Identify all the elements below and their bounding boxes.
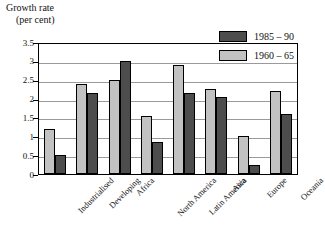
bar-group [173,44,195,174]
bar-group [44,44,66,174]
bar [44,129,55,174]
bar [205,89,216,174]
legend: 1985 – 901960 – 65 [219,27,294,65]
dark-gray-swatch [219,31,247,42]
bar [141,116,152,174]
legend-item-label: 1960 – 65 [254,51,294,61]
bar [270,91,281,174]
y-axis-tick-label: 3 [4,57,34,66]
light-gray-swatch [219,50,247,61]
bar [249,165,260,174]
bar [173,65,184,174]
y-axis-tick-label: 1 [4,133,34,142]
bar [238,136,249,174]
x-axis-labels: IndustrialisedDevelopingAfricaNorth Amer… [38,176,298,238]
y-axis-tick-label: 3.5 [4,39,34,48]
legend-item: 1985 – 90 [219,27,294,46]
bar [216,97,227,174]
bar [120,61,131,174]
y-axis-tick-label: 0 [4,171,34,180]
y-axis-tick-label: 2.5 [4,76,34,85]
x-axis-label: Oceania [299,176,325,202]
bar-group [141,44,163,174]
y-axis-tick-label: 2 [4,95,34,104]
bar [109,80,120,174]
bar-group [109,44,131,174]
bar [55,155,66,174]
legend-item: 1960 – 65 [219,46,294,65]
bar [184,93,195,174]
bar [152,142,163,174]
bar [87,93,98,174]
x-axis-label: Europe [266,176,290,200]
x-axis-label: Industrialised [77,176,116,215]
legend-item-label: 1985 – 90 [254,32,294,42]
y-axis-title-line-1: Growth rate [6,2,55,14]
y-axis-tick-label: 1.5 [4,114,34,123]
y-axis-title-line-2: (per cent) [6,14,55,26]
bar [76,84,87,175]
bar-group [76,44,98,174]
y-axis-title: Growth rate (per cent) [6,2,55,26]
bar [281,114,292,174]
y-axis-tick-label: 0.5 [4,152,34,161]
